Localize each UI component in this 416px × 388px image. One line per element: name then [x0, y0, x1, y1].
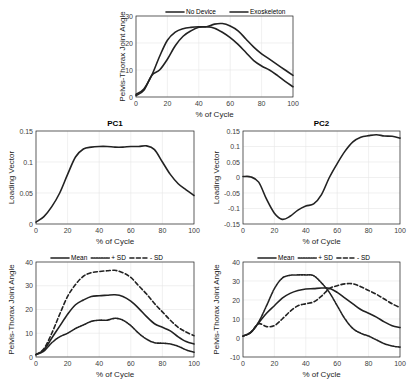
y-tick-label: 0 [29, 354, 33, 361]
series-line-sd [243, 284, 400, 337]
legend-label: Mean [278, 254, 295, 261]
x-tick-label: 40 [95, 227, 103, 234]
y-axis-label: Pelvis-Thorax Joint Angle [7, 264, 16, 355]
x-tick-label: 20 [64, 360, 72, 367]
legend-label: + SD [111, 254, 126, 261]
y-tick-label: 0.05 [226, 159, 240, 166]
x-tick-label: 0 [241, 360, 245, 367]
y-tick-label: -0.15 [224, 221, 240, 228]
x-tick-label: 20 [271, 360, 279, 367]
y-tick-label: 0.05 [19, 190, 33, 197]
y-tick-label: 0 [29, 221, 33, 228]
x-tick-label: 60 [333, 227, 341, 234]
plot-area-frame [243, 262, 400, 357]
x-tick-label: 20 [271, 227, 279, 234]
y-tick-label: -0.1 [228, 205, 240, 212]
x-tick-label: 20 [164, 100, 172, 107]
legend: Mean+ SD- SD [258, 254, 370, 261]
x-tick-label: 60 [226, 100, 234, 107]
series-line-pc2 [243, 135, 400, 220]
series-line-no-device [136, 27, 293, 95]
series-line-mean [243, 288, 400, 336]
chart-br: 020406080100-10010203040% of CyclePelvis… [212, 254, 406, 379]
legend-label: No Device [186, 8, 216, 15]
x-tick-label: 60 [127, 227, 135, 234]
legend-label: + SD [318, 254, 333, 261]
x-tick-label: 80 [159, 360, 167, 367]
y-tick-label: 30 [232, 278, 240, 285]
x-tick-label: 0 [34, 227, 38, 234]
y-tick-label: 0.15 [19, 128, 33, 135]
x-tick-label: 80 [258, 100, 266, 107]
x-tick-label: 40 [302, 227, 310, 234]
y-axis-label: Pelvis-Thorax Joint Angle [212, 264, 221, 355]
y-tick-label: 40 [232, 259, 240, 266]
y-axis-label: Pelvis-Thorax Joint Angle [118, 11, 127, 102]
x-axis-label: % of Cycle [195, 110, 234, 119]
y-tick-label: -0.05 [224, 190, 240, 197]
x-tick-label: 40 [302, 360, 310, 367]
series-line-sd [36, 318, 194, 354]
y-axis-label: Loading Vector [7, 150, 16, 204]
x-tick-label: 0 [134, 100, 138, 107]
legend-label: - SD [150, 254, 163, 261]
x-tick-label: 20 [64, 227, 72, 234]
figure-canvas: 0204060801000102030% of CyclePelvis-Thor… [0, 0, 416, 388]
y-tick-label: 10 [232, 316, 240, 323]
x-tick-label: 40 [95, 360, 103, 367]
legend-label: Exoskeleton [250, 8, 286, 15]
y-tick-label: 0.1 [230, 143, 240, 150]
y-tick-label: 0.1 [23, 159, 33, 166]
chart-pc1: 02040608010000.050.10.15% of CycleLoadin… [7, 119, 200, 246]
y-tick-label: 20 [232, 297, 240, 304]
legend-label: Mean [71, 254, 88, 261]
x-tick-label: 0 [34, 360, 38, 367]
x-tick-label: 60 [127, 360, 135, 367]
y-axis-label: Loading Vector [212, 150, 221, 204]
x-axis-label: % of Cycle [96, 237, 135, 246]
y-tick-label: 0.15 [226, 128, 240, 135]
y-tick-label: 20 [25, 306, 33, 313]
y-tick-label: 0 [129, 94, 133, 101]
x-tick-label: 60 [333, 360, 341, 367]
y-tick-label: 0 [236, 335, 240, 342]
legend: Mean+ SD- SD [51, 254, 163, 261]
series-line-exoskeleton [136, 23, 293, 95]
legend: No DeviceExoskeleton [166, 8, 286, 15]
x-tick-label: 80 [159, 227, 167, 234]
series-line-sd [36, 270, 194, 354]
y-tick-label: -10 [230, 354, 240, 361]
series-line-mean [36, 295, 194, 355]
x-tick-label: 0 [241, 227, 245, 234]
chart-title: PC1 [107, 119, 123, 128]
x-tick-label: 40 [195, 100, 203, 107]
x-axis-label: % of Cycle [96, 370, 135, 379]
series-line-sd [243, 275, 400, 347]
chart-top: 0204060801000102030% of CyclePelvis-Thor… [118, 8, 299, 119]
x-axis-label: % of Cycle [302, 237, 341, 246]
x-tick-label: 80 [365, 360, 373, 367]
x-axis-label: % of Cycle [302, 370, 341, 379]
y-tick-label: 30 [25, 282, 33, 289]
series-line-pc1 [36, 146, 194, 222]
chart-pc2: 020406080100-0.15-0.1-0.0500.050.10.15% … [212, 119, 406, 246]
x-tick-label: 80 [365, 227, 373, 234]
x-tick-label: 100 [287, 100, 299, 107]
y-tick-label: 10 [25, 330, 33, 337]
y-tick-label: 40 [25, 259, 33, 266]
y-tick-label: 0 [236, 174, 240, 181]
x-tick-label: 100 [394, 227, 406, 234]
plot-area-frame [36, 131, 194, 224]
legend-label: - SD [357, 254, 370, 261]
x-tick-label: 100 [394, 360, 406, 367]
chart-bl: 020406080100010203040% of CyclePelvis-Th… [7, 254, 200, 379]
x-tick-label: 100 [188, 227, 200, 234]
x-tick-label: 100 [188, 360, 200, 367]
chart-title: PC2 [314, 119, 330, 128]
